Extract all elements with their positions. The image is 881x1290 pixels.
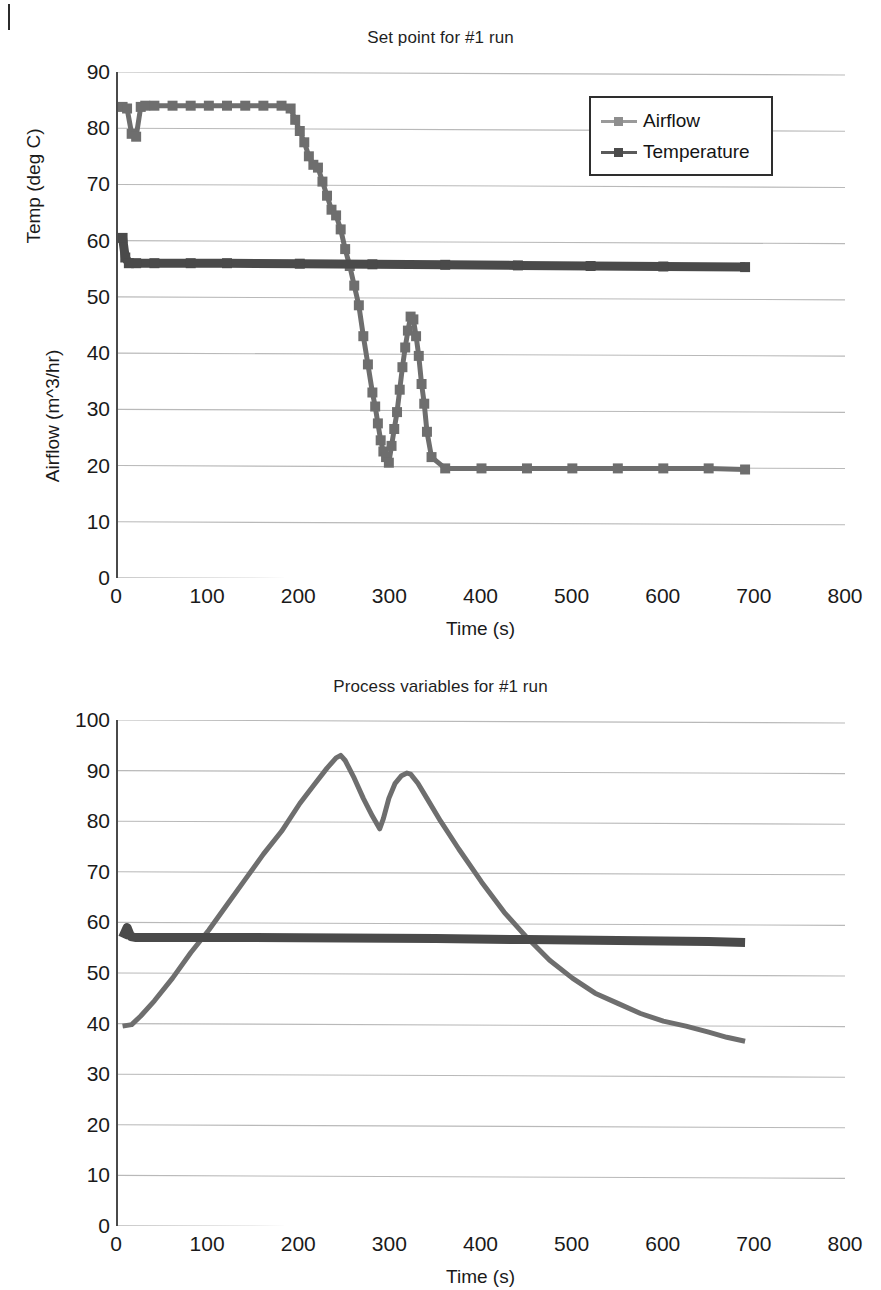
data-point-marker [277, 101, 287, 111]
y-tick-label: 100 [75, 708, 110, 732]
x-tick-label: 200 [281, 584, 316, 608]
data-point-marker [149, 101, 159, 111]
gridline [118, 973, 845, 976]
y-tick-label: 90 [87, 60, 110, 84]
x-tick-label: 300 [372, 1232, 407, 1256]
data-point-marker [354, 300, 364, 310]
gridline [118, 297, 845, 300]
figure-set-point-chart: Set point for #1 run 9080706050403020100… [0, 0, 881, 645]
gridline [118, 922, 845, 925]
data-point-marker [340, 244, 350, 254]
y-tick-label: 0 [98, 566, 110, 590]
page-root: Set point for #1 run 9080706050403020100… [0, 0, 881, 1290]
x-tick-label: 600 [645, 584, 680, 608]
gridline [118, 720, 845, 723]
data-point-marker [258, 101, 268, 111]
y-tick-label: 80 [87, 809, 110, 833]
data-point-marker [358, 331, 368, 341]
data-point-marker [411, 331, 421, 341]
x-axis-label: Time (s) [116, 1266, 845, 1288]
gridline [118, 771, 845, 774]
y-tick-label: 50 [87, 961, 110, 985]
y-tick-label: 20 [87, 1113, 110, 1137]
legend-label-airflow: Airflow [643, 110, 700, 132]
data-point-marker [131, 258, 141, 268]
y-axis-tick-labels: 1009080706050403020100 [52, 720, 110, 1226]
chart-title: Process variables for #1 run [0, 677, 881, 697]
gridline [118, 72, 845, 75]
data-point-marker [140, 101, 150, 111]
y-tick-label: 80 [87, 116, 110, 140]
data-point-marker [317, 177, 327, 187]
x-tick-label: 700 [736, 1232, 771, 1256]
x-tick-label: 400 [463, 1232, 498, 1256]
data-point-marker [331, 210, 341, 220]
legend-label-temperature: Temperature [643, 141, 750, 163]
data-point-marker [400, 343, 410, 353]
data-point-marker [286, 104, 296, 114]
data-point-marker [373, 418, 383, 428]
data-point-marker [299, 137, 309, 147]
data-point-marker [567, 463, 577, 473]
plot-area-wrapper [116, 720, 845, 1226]
data-point-marker [395, 385, 405, 395]
gridline [118, 522, 845, 525]
x-tick-label: 300 [372, 584, 407, 608]
y-axis-label-primary: Temp (deg C) [23, 96, 45, 276]
chart-canvas [118, 720, 845, 1226]
data-point-marker [586, 261, 596, 271]
data-point-marker [313, 163, 323, 173]
data-point-marker [186, 258, 196, 268]
series-line-temperature [123, 928, 745, 943]
data-point-marker [740, 465, 750, 475]
data-point-marker [740, 262, 750, 272]
data-point-marker [417, 379, 427, 389]
y-tick-label: 40 [87, 1012, 110, 1036]
data-point-marker [363, 359, 373, 369]
y-tick-label: 10 [87, 510, 110, 534]
x-tick-label: 800 [827, 584, 862, 608]
y-axis-label-secondary: Airflow (m^3/hr) [42, 311, 64, 521]
data-point-marker [367, 259, 377, 269]
data-point-marker [118, 233, 128, 243]
data-point-marker [658, 463, 668, 473]
gridline [118, 872, 845, 875]
gridline [118, 1175, 845, 1178]
gridline [118, 1024, 845, 1027]
legend-item-temperature: Temperature [601, 136, 757, 167]
data-point-marker [613, 463, 623, 473]
legend-marker-airflow-icon [601, 113, 637, 129]
y-tick-label: 30 [87, 397, 110, 421]
y-tick-label: 70 [87, 172, 110, 196]
x-tick-label: 400 [463, 584, 498, 608]
x-tick-label: 600 [645, 1232, 680, 1256]
y-tick-label: 0 [98, 1214, 110, 1238]
data-point-marker [367, 388, 377, 398]
data-point-marker [427, 452, 437, 462]
y-tick-label: 20 [87, 454, 110, 478]
y-tick-label: 30 [87, 1062, 110, 1086]
y-tick-label: 70 [87, 860, 110, 884]
gridline [118, 409, 845, 412]
x-axis-tick-labels: 0100200300400500600700800 [116, 1232, 845, 1262]
y-tick-label: 90 [87, 759, 110, 783]
x-tick-label: 500 [554, 1232, 589, 1256]
gridline [118, 1125, 845, 1128]
data-point-marker [370, 402, 380, 412]
x-tick-label: 100 [190, 584, 225, 608]
data-point-marker [186, 101, 196, 111]
figure-process-variables-chart: Process variables for #1 run 10090807060… [0, 645, 881, 1290]
data-point-marker [336, 224, 346, 234]
data-point-marker [168, 101, 178, 111]
gridline [118, 1074, 845, 1077]
data-point-marker [290, 115, 300, 125]
data-point-marker [419, 399, 429, 409]
chart-title: Set point for #1 run [0, 28, 881, 48]
chart-legend: Airflow Temperature [589, 96, 773, 176]
y-tick-label: 60 [87, 229, 110, 253]
data-point-marker [122, 104, 132, 114]
data-point-marker [704, 463, 714, 473]
data-point-marker [389, 424, 399, 434]
y-tick-label: 50 [87, 285, 110, 309]
data-point-marker [387, 441, 397, 451]
